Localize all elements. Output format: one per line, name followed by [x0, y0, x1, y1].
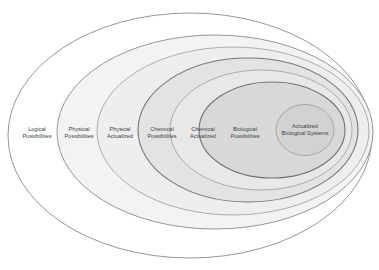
label-actualized-biological-systems-line2: Biological Systems [282, 130, 329, 136]
label-logical-possibilities-line1: Logical [28, 126, 46, 132]
label-physical-actualized-line2: Actualized [107, 133, 133, 139]
label-chemical-actualized-line1: Chemical [191, 126, 214, 132]
label-physical-possibilities-line1: Physical [69, 126, 90, 132]
label-physical-actualized-line1: Physical [110, 126, 131, 132]
label-chemical-possibilities: Chemical Possibilities [147, 126, 176, 139]
diagram-canvas: Logical Possibilities Physical Possibili… [0, 0, 379, 270]
label-physical-possibilities: Physical Possibilities [64, 126, 93, 139]
label-chemical-possibilities-line1: Chemical [150, 126, 173, 132]
label-actualized-biological-systems-line1: Actualized [292, 123, 318, 129]
nested-ellipse-diagram: Logical Possibilities Physical Possibili… [0, 0, 379, 270]
label-biological-possibilities-line1: Biological [233, 126, 257, 132]
label-logical-possibilities-line2: Possibilities [22, 133, 51, 139]
label-chemical-possibilities-line2: Possibilities [147, 133, 176, 139]
label-physical-possibilities-line2: Possibilities [64, 133, 93, 139]
label-biological-possibilities-line2: Possibilities [230, 133, 259, 139]
label-chemical-actualized-line2: Actualized [190, 133, 216, 139]
label-physical-actualized: Physical Actualized [107, 126, 133, 139]
label-chemical-actualized: Chemical Actualized [190, 126, 216, 139]
label-biological-possibilities: Biological Possibilities [230, 126, 259, 139]
